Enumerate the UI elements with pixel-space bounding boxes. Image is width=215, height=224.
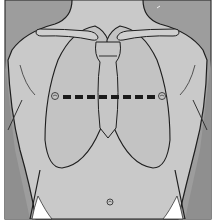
diagram-frame: Torso outline with lung fields and dashe… (0, 0, 215, 224)
torso-diagram (0, 0, 215, 224)
